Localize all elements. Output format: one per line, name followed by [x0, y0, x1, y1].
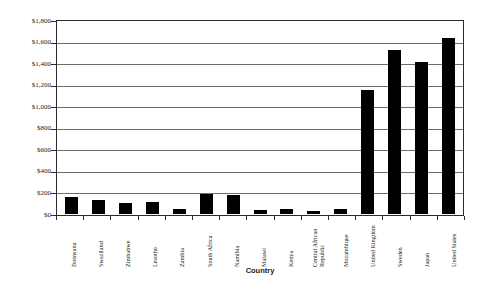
bar-slot	[85, 22, 112, 214]
x-axis-category-label-line: Mozambique	[342, 221, 349, 267]
x-axis-title: Country	[56, 266, 464, 276]
public-health-expenditure-bar-chart: Public Health Expenditure $0$200$400$600…	[0, 0, 478, 290]
bar[interactable]	[92, 200, 105, 214]
bar[interactable]	[280, 209, 293, 214]
x-label-slot: United Kingdom	[355, 221, 382, 267]
x-label-slot: Zimbabwe	[110, 221, 137, 267]
y-axis-tick-label: $600	[17, 147, 51, 154]
x-axis-category-label: Central AfricanRepublic	[311, 221, 325, 267]
x-axis-tick	[219, 216, 220, 220]
x-label-slot: Kenya	[274, 221, 301, 267]
x-axis-category-label-line: Kenya	[287, 221, 294, 267]
x-axis-tick	[382, 216, 383, 220]
y-axis-tick-label: $1,600	[17, 39, 51, 46]
x-axis-tick-marks	[56, 216, 464, 220]
x-label-slot: South Africa	[192, 221, 219, 267]
x-axis-category-label-line: Sweden	[396, 221, 403, 267]
y-axis-tick-label: $0	[17, 212, 51, 219]
x-axis-category-label: Swaziland	[97, 221, 104, 267]
x-axis-category-label-line: Japan	[423, 221, 430, 267]
x-axis-category-label-line: Zimbabwe	[124, 221, 131, 267]
x-axis-category-labels: BotswanaSwazilandZimbabweLesothoZambiaSo…	[56, 221, 464, 267]
bar-slot	[408, 22, 435, 214]
bar-slot	[354, 22, 381, 214]
bar[interactable]	[65, 197, 78, 214]
x-label-slot: Zambia	[165, 221, 192, 267]
x-axis-category-label-line: Namibia	[233, 221, 240, 267]
x-axis-category-label-line: Lesotho	[151, 221, 158, 267]
y-axis-tick-label: $1,000	[17, 104, 51, 111]
bar[interactable]	[146, 202, 159, 214]
bar[interactable]	[307, 211, 320, 214]
bar[interactable]	[227, 195, 240, 214]
bars-layer	[58, 22, 462, 214]
x-axis-category-label: Malawi	[260, 221, 267, 267]
bar-slot	[300, 22, 327, 214]
x-axis-category-label: Zimbabwe	[124, 221, 131, 267]
bar[interactable]	[119, 203, 132, 214]
y-axis-tick-label: $400	[17, 168, 51, 175]
bar-slot	[435, 22, 462, 214]
x-axis-category-label: Sweden	[396, 221, 403, 267]
bar-slot	[193, 22, 220, 214]
bar[interactable]	[254, 210, 267, 214]
x-axis-category-label: Namibia	[233, 221, 240, 267]
x-axis-category-label: Lesotho	[151, 221, 158, 267]
x-axis-category-label: United Kingdom	[369, 221, 376, 267]
bar-slot	[166, 22, 193, 214]
x-label-slot: Central AfricanRepublic	[301, 221, 328, 267]
x-label-slot: Lesotho	[138, 221, 165, 267]
x-axis-category-label-line: Central African	[311, 221, 318, 267]
bar[interactable]	[200, 194, 213, 214]
x-axis-tick	[328, 216, 329, 220]
bar[interactable]	[334, 209, 347, 214]
y-axis-tick-label: $200	[17, 190, 51, 197]
y-axis-tick-label: $800	[17, 125, 51, 132]
x-axis-tick	[355, 216, 356, 220]
x-label-slot: Botswana	[56, 221, 83, 267]
x-axis-category-label: Mozambique	[342, 221, 349, 267]
bar[interactable]	[388, 50, 401, 214]
x-label-slot: Sweden	[382, 221, 409, 267]
x-axis-category-label: United States	[450, 221, 457, 267]
y-axis-tick-label: $1,200	[17, 82, 51, 89]
bar-slot	[381, 22, 408, 214]
bar[interactable]	[361, 90, 374, 214]
x-axis-tick	[410, 216, 411, 220]
y-axis-tick-label: $1,400	[17, 61, 51, 68]
x-axis-category-label: Zambia	[178, 221, 185, 267]
x-axis-tick	[83, 216, 84, 220]
plot-area	[56, 20, 464, 216]
x-axis-category-label: South Africa	[206, 221, 213, 267]
bar-slot	[274, 22, 301, 214]
x-axis-category-label-line: Swaziland	[97, 221, 104, 267]
x-axis-tick	[246, 216, 247, 220]
x-axis-category-label-line: South Africa	[206, 221, 213, 267]
x-label-slot: Mozambique	[328, 221, 355, 267]
bar-slot	[112, 22, 139, 214]
x-axis-tick	[165, 216, 166, 220]
x-axis-category-label-line: Botswana	[70, 221, 77, 267]
x-axis-tick	[138, 216, 139, 220]
bar-slot	[327, 22, 354, 214]
x-label-slot: United States	[437, 221, 464, 267]
x-axis-tick	[464, 216, 465, 220]
y-axis-tick-label: $1,800	[17, 18, 51, 25]
x-axis-tick	[301, 216, 302, 220]
x-label-slot: Japan	[410, 221, 437, 267]
x-axis-category-label-line: United States	[450, 221, 457, 267]
x-axis-category-label-line: United Kingdom	[369, 221, 376, 267]
x-axis-category-label-line: Malawi	[260, 221, 267, 267]
bar-slot	[247, 22, 274, 214]
x-axis-tick	[274, 216, 275, 220]
x-axis-category-label: Kenya	[287, 221, 294, 267]
bar-slot	[220, 22, 247, 214]
bar[interactable]	[415, 62, 428, 214]
bar[interactable]	[442, 38, 455, 214]
bar-slot	[139, 22, 166, 214]
x-axis-tick	[110, 216, 111, 220]
x-axis-category-label: Botswana	[70, 221, 77, 267]
bar[interactable]	[173, 209, 186, 214]
x-label-slot: Namibia	[219, 221, 246, 267]
x-axis-category-label-line: Republic	[318, 221, 325, 267]
